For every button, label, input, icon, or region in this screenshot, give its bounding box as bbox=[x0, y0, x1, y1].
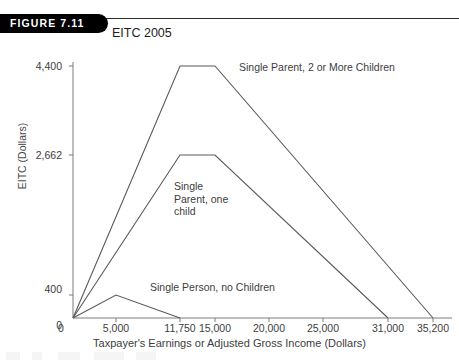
x-tick-label-15000: 15,000 bbox=[186, 322, 244, 334]
series-line-one-child bbox=[73, 155, 388, 318]
page-footer-artifact bbox=[6, 352, 156, 360]
y-tick-label-400: 400 bbox=[6, 283, 62, 295]
x-tick-label-20000: 20,000 bbox=[240, 322, 298, 334]
x-tick-label-5000: 5,000 bbox=[90, 322, 142, 334]
series-label-two-or-more-children: Single Parent, 2 or More Children bbox=[239, 61, 395, 74]
series-label-no-children: Single Person, no Children bbox=[150, 281, 275, 294]
x-tick-label-35200: 35,200 bbox=[404, 322, 459, 334]
y-tick-label-2662: 2,662 bbox=[6, 149, 62, 161]
x-axis-title: Taxpayer's Earnings or Adjusted Gross In… bbox=[0, 337, 459, 349]
series-line-no-children bbox=[73, 295, 180, 318]
y-tick-label-4400: 4,400 bbox=[6, 60, 62, 72]
chart-canvas bbox=[0, 0, 459, 363]
chart-plot-area: EITC (Dollars) 4,400 2,662 400 0 0 5,000… bbox=[0, 0, 459, 363]
series-label-one-child: Single Parent, one child bbox=[174, 180, 228, 218]
x-tick-label-25000: 25,000 bbox=[294, 322, 352, 334]
x-tick-label-0: 0 bbox=[49, 322, 73, 334]
